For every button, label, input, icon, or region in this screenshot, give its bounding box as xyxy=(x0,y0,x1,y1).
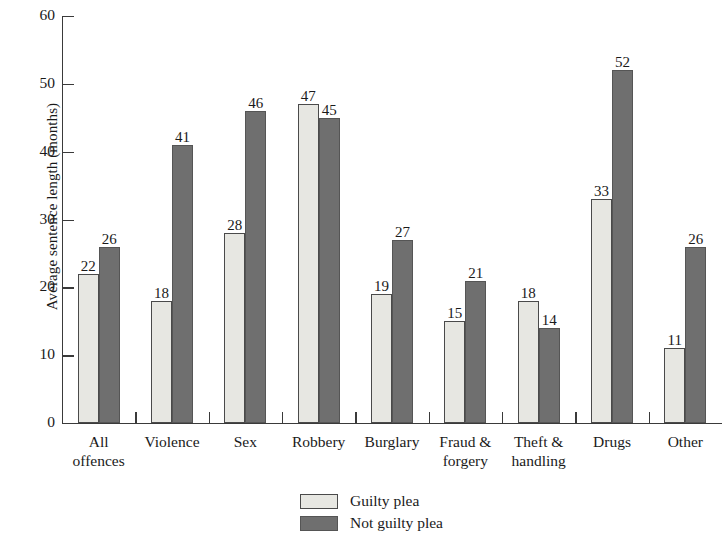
y-axis-tick: 60 xyxy=(63,16,74,17)
bar-value-label: 52 xyxy=(615,55,630,70)
y-axis-tick-label: 30 xyxy=(40,210,56,228)
x-axis-tick xyxy=(355,412,356,423)
legend-label: Guilty plea xyxy=(350,492,419,510)
bar-value-label: 46 xyxy=(248,96,263,111)
bar-value-label: 11 xyxy=(668,333,682,348)
bar-value-label: 14 xyxy=(542,313,557,328)
x-axis-label-line2: forgery xyxy=(439,451,491,470)
x-axis-label: Robbery xyxy=(292,432,345,451)
bar-value-label: 41 xyxy=(175,130,190,145)
bar-value-label: 19 xyxy=(374,279,389,294)
y-axis-tick: 20 xyxy=(63,287,74,288)
x-axis-label: Drugs xyxy=(593,432,631,451)
chart-legend: Guilty pleaNot guilty plea xyxy=(300,490,443,534)
x-axis-label: Burglary xyxy=(365,432,420,451)
y-axis-tick: 10 xyxy=(63,355,74,356)
bar-value-label: 26 xyxy=(688,232,703,247)
bar: 52 xyxy=(612,70,633,423)
bar-value-label: 27 xyxy=(395,225,410,240)
x-axis-tick xyxy=(209,412,210,423)
x-axis-label-line1: Burglary xyxy=(365,433,420,450)
x-axis-label-line1: Drugs xyxy=(593,433,631,450)
bar-value-label: 33 xyxy=(594,184,609,199)
x-axis-label-line2: offences xyxy=(73,451,125,470)
legend-item: Guilty plea xyxy=(300,490,443,512)
bar: 28 xyxy=(224,233,245,423)
y-axis-tick-label: 60 xyxy=(40,6,56,24)
x-axis-line xyxy=(62,423,722,424)
bar-value-label: 18 xyxy=(154,286,169,301)
y-axis-tick-label: 10 xyxy=(40,345,56,363)
plot-area: 0102030405060 22261841284647451927152118… xyxy=(62,16,722,423)
bar-value-label: 22 xyxy=(81,259,96,274)
y-axis-tick: 40 xyxy=(63,152,74,153)
bar: 18 xyxy=(151,301,172,423)
bar: 15 xyxy=(444,321,465,423)
legend-swatch xyxy=(300,494,338,509)
x-axis-label: Theft &handling xyxy=(512,432,566,470)
x-axis-label-line1: All xyxy=(89,433,109,450)
y-axis-tick-label: 40 xyxy=(40,142,56,160)
x-axis-tick xyxy=(429,412,430,423)
x-axis-tick xyxy=(282,412,283,423)
legend-swatch xyxy=(300,516,338,531)
x-axis-label: Other xyxy=(668,432,703,451)
x-axis-label: Fraud &forgery xyxy=(439,432,491,470)
x-axis-tick xyxy=(649,412,650,423)
x-axis-label-line1: Other xyxy=(668,433,703,450)
x-axis-label: Sex xyxy=(234,432,257,451)
x-axis-label-line1: Theft & xyxy=(514,433,564,450)
bar: 33 xyxy=(591,199,612,423)
y-axis-tick: 50 xyxy=(63,84,74,85)
bar: 26 xyxy=(99,247,120,423)
x-axis-tick xyxy=(502,412,503,423)
y-axis-tick-label: 20 xyxy=(40,277,56,295)
x-axis-label-line1: Violence xyxy=(144,433,199,450)
bar-value-label: 21 xyxy=(468,266,483,281)
bar: 45 xyxy=(319,118,340,423)
x-axis-label-line2: handling xyxy=(512,451,566,470)
x-axis-label: Alloffences xyxy=(73,432,125,470)
bar: 27 xyxy=(392,240,413,423)
legend-item: Not guilty plea xyxy=(300,512,443,534)
x-axis-label-line1: Robbery xyxy=(292,433,345,450)
bar: 47 xyxy=(298,104,319,423)
bar: 26 xyxy=(685,247,706,423)
bar-value-label: 28 xyxy=(227,218,242,233)
bar: 14 xyxy=(539,328,560,423)
x-axis-tick xyxy=(135,412,136,423)
bar-value-label: 47 xyxy=(301,89,316,104)
x-axis-tick xyxy=(575,412,576,423)
y-axis-tick: 30 xyxy=(63,220,74,221)
y-axis-tick: 0 xyxy=(63,423,74,424)
x-axis-label-line1: Sex xyxy=(234,433,257,450)
bar: 46 xyxy=(245,111,266,423)
bar: 21 xyxy=(465,281,486,423)
bar-value-label: 15 xyxy=(447,306,462,321)
bar: 19 xyxy=(371,294,392,423)
bar-value-label: 26 xyxy=(102,232,117,247)
x-axis-label: Violence xyxy=(144,432,199,451)
legend-label: Not guilty plea xyxy=(350,514,443,532)
x-axis-label-line1: Fraud & xyxy=(439,433,491,450)
y-axis-tick-label: 0 xyxy=(47,413,55,431)
bar-chart: Average sentence length (months) 0102030… xyxy=(0,0,726,538)
y-axis-tick-label: 50 xyxy=(40,74,56,92)
bar: 11 xyxy=(664,348,685,423)
bar: 22 xyxy=(78,274,99,423)
bar: 18 xyxy=(518,301,539,423)
bar: 41 xyxy=(172,145,193,423)
bar-value-label: 18 xyxy=(521,286,536,301)
bar-value-label: 45 xyxy=(322,103,337,118)
